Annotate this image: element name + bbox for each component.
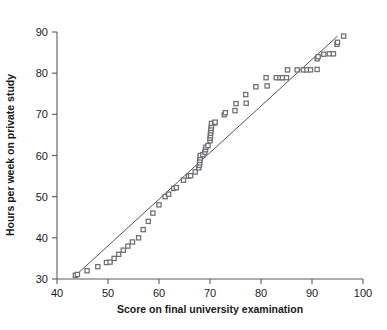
data-point-marker: [223, 111, 227, 115]
data-point-marker: [342, 34, 346, 38]
data-point-marker: [335, 40, 339, 44]
x-tick-label: 90: [306, 287, 318, 299]
y-tick-label: 60: [36, 150, 48, 162]
data-point-marker: [75, 272, 79, 276]
data-point-marker: [244, 92, 248, 96]
data-point-marker: [233, 109, 237, 113]
data-point-marker: [96, 265, 100, 269]
data-point-marker: [265, 84, 269, 88]
x-tick-label: 80: [255, 287, 267, 299]
data-point-marker: [295, 68, 299, 72]
x-tick-label: 100: [354, 287, 372, 299]
data-point-marker: [316, 55, 320, 59]
data-point-marker: [137, 236, 141, 240]
x-tick-label: 50: [102, 287, 114, 299]
y-axis-title: Hours per week on private study: [4, 74, 16, 236]
data-point-marker: [285, 68, 289, 72]
data-point-marker: [112, 256, 116, 260]
data-point-marker: [189, 174, 193, 178]
data-point-marker: [130, 240, 134, 244]
data-point-marker: [264, 76, 268, 80]
data-point-marker: [151, 211, 155, 215]
data-point-marker: [85, 269, 89, 273]
data-point-marker: [315, 67, 319, 71]
y-tick-label: 90: [36, 26, 48, 38]
data-point-marker: [157, 203, 161, 207]
x-axis-title: Score on final university examination: [117, 303, 303, 315]
x-tick-label: 70: [204, 287, 216, 299]
data-point-marker: [121, 248, 125, 252]
data-point-marker: [141, 228, 145, 232]
data-point-marker: [181, 178, 185, 182]
y-tick-label: 30: [36, 273, 48, 285]
data-point-marker: [126, 244, 130, 248]
x-tick-label: 40: [51, 287, 63, 299]
data-point-marker: [284, 76, 288, 80]
data-point-marker: [117, 252, 121, 256]
data-point-marker: [167, 192, 171, 196]
data-point-marker: [206, 144, 210, 148]
scatter-plot-figure: 30405060708090 405060708090100 Score on …: [0, 0, 387, 330]
plot-canvas: 30405060708090 405060708090100 Score on …: [0, 0, 387, 330]
x-tick-label: 60: [153, 287, 165, 299]
y-tick-label: 80: [36, 67, 48, 79]
data-point-marker: [146, 219, 150, 223]
data-point-marker: [254, 85, 258, 89]
data-point-marker: [322, 52, 326, 56]
y-tick-label: 70: [36, 108, 48, 120]
plot-background: [0, 0, 387, 330]
data-point-marker: [331, 52, 335, 56]
data-point-marker: [234, 102, 238, 106]
data-point-marker: [244, 101, 248, 105]
data-point-marker: [213, 120, 217, 124]
data-point-marker: [174, 186, 178, 190]
data-point-marker: [308, 68, 312, 72]
y-tick-label: 50: [36, 191, 48, 203]
y-tick-label: 40: [36, 232, 48, 244]
